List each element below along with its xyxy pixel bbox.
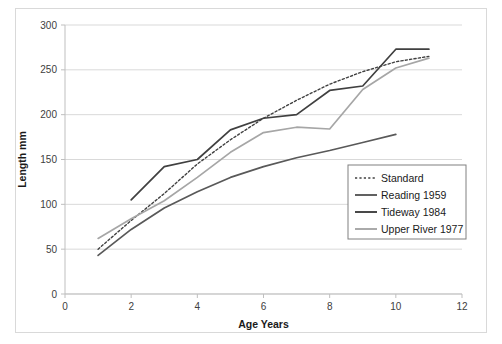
- line-chart: 050100150200250300024681012Age YearsLeng…: [0, 0, 502, 344]
- chart-figure: 050100150200250300024681012Age YearsLeng…: [0, 0, 502, 344]
- x-tick-label: 2: [128, 301, 134, 312]
- x-tick-label: 0: [62, 301, 68, 312]
- y-tick-label: 0: [51, 289, 57, 300]
- x-tick-label: 8: [327, 301, 333, 312]
- y-tick-label: 50: [46, 244, 58, 255]
- y-tick-label: 250: [40, 64, 57, 75]
- legend-label-tideway-1984: Tideway 1984: [381, 206, 446, 218]
- x-tick-label: 6: [261, 301, 267, 312]
- y-tick-label: 100: [40, 199, 57, 210]
- y-tick-label: 200: [40, 109, 57, 120]
- x-tick-label: 4: [195, 301, 201, 312]
- legend-label-reading-1959: Reading 1959: [381, 189, 447, 201]
- x-axis-title: Age Years: [238, 318, 289, 330]
- legend: StandardReading 1959Tideway 1984Upper Ri…: [348, 165, 466, 239]
- legend-label-upper-river-1977: Upper River 1977: [381, 223, 463, 235]
- y-axis-title: Length mm: [16, 131, 28, 188]
- y-tick-label: 150: [40, 154, 57, 165]
- x-tick-label: 10: [390, 301, 402, 312]
- legend-label-standard: Standard: [381, 172, 424, 184]
- y-tick-label: 300: [40, 20, 57, 31]
- x-tick-label: 12: [456, 301, 468, 312]
